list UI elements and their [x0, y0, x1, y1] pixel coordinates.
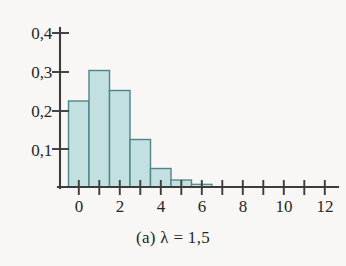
bar-0	[69, 101, 90, 187]
x-axis-tick-label-12: 12	[312, 197, 338, 217]
x-axis-tick-label-0: 0	[66, 197, 92, 217]
x-axis-tick-label-6: 6	[189, 197, 215, 217]
figure-caption: (a) λ = 1,5	[0, 228, 346, 248]
x-axis-tick-label-4: 4	[148, 197, 174, 217]
bar-3	[130, 140, 151, 188]
poisson-histogram-figure: 0,4 0,3 0,2 0,1	[0, 0, 346, 266]
bar-1	[89, 71, 110, 188]
x-axis-tick-label-10: 10	[271, 197, 297, 217]
plot-area	[0, 0, 346, 266]
x-axis-tick-label-2: 2	[107, 197, 133, 217]
x-axis-tick-label-8: 8	[230, 197, 256, 217]
bar-2	[110, 91, 131, 188]
bar-series	[69, 71, 213, 188]
